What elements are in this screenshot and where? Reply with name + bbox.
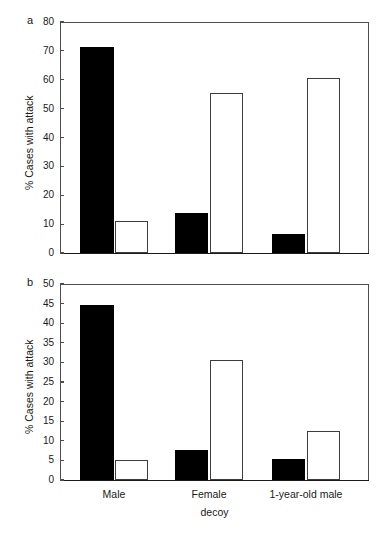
tick-mark: [60, 79, 64, 80]
bar-b-male-open: [115, 460, 148, 480]
y-tick-label: 40: [18, 317, 54, 328]
panel-b-baseline: [60, 480, 369, 481]
panel-a-y-axis-label: % Cases with attack: [24, 95, 35, 190]
tick-mark: [60, 440, 64, 441]
panel-a: a 01020304050607080 % Cases with attack: [0, 0, 383, 262]
tick-mark: [60, 362, 64, 363]
bar-a-1-year-old-male-filled: [272, 234, 305, 253]
tick-mark: [60, 108, 64, 109]
bar-a-male-open: [115, 221, 148, 253]
bar-b-male-filled: [80, 305, 114, 480]
tick-mark: [60, 479, 64, 480]
tick-mark: [60, 21, 64, 22]
tick-mark: [60, 137, 64, 138]
y-tick-label: 0: [18, 247, 54, 258]
y-tick-label: 80: [18, 16, 54, 27]
tick-mark: [60, 252, 64, 253]
bar-b-1-year-old-male-filled: [272, 459, 305, 480]
tick-mark: [60, 401, 64, 402]
bar-b-female-filled: [175, 450, 208, 480]
bar-b-1-year-old-male-open: [307, 431, 340, 480]
tick-mark: [60, 421, 64, 422]
tick-mark: [60, 460, 64, 461]
panel-b: b 05101520253035404550 % Cases with atta…: [0, 262, 383, 543]
bar-b-female-open: [210, 360, 243, 480]
panel-a-baseline: [60, 253, 369, 254]
y-tick-label: 70: [18, 45, 54, 56]
y-tick-label: 0: [18, 474, 54, 485]
tick-mark: [60, 224, 64, 225]
tick-mark: [60, 50, 64, 51]
tick-mark: [60, 166, 64, 167]
bar-a-male-filled: [80, 47, 114, 253]
bar-a-female-filled: [175, 213, 208, 253]
tick-mark: [60, 283, 64, 284]
tick-mark: [60, 323, 64, 324]
tick-mark: [60, 381, 64, 382]
y-tick-label: 10: [18, 218, 54, 229]
tick-mark: [60, 303, 64, 304]
y-tick-label: 10: [18, 435, 54, 446]
bar-a-female-open: [210, 93, 243, 253]
y-tick-label: 50: [18, 278, 54, 289]
bar-a-1-year-old-male-open: [307, 78, 340, 253]
panel-b-y-axis-label: % Cases with attack: [24, 339, 35, 434]
figure-two-panel-bar-chart: a 01020304050607080 % Cases with attack …: [0, 0, 383, 543]
x-tick-label-1-year-old-male: 1-year-old male: [246, 488, 366, 500]
y-tick-label: 5: [18, 454, 54, 465]
y-tick-label: 60: [18, 74, 54, 85]
x-axis-title: decoy: [145, 506, 285, 518]
tick-mark: [60, 342, 64, 343]
tick-mark: [60, 195, 64, 196]
y-tick-label: 20: [18, 189, 54, 200]
y-tick-label: 45: [18, 298, 54, 309]
